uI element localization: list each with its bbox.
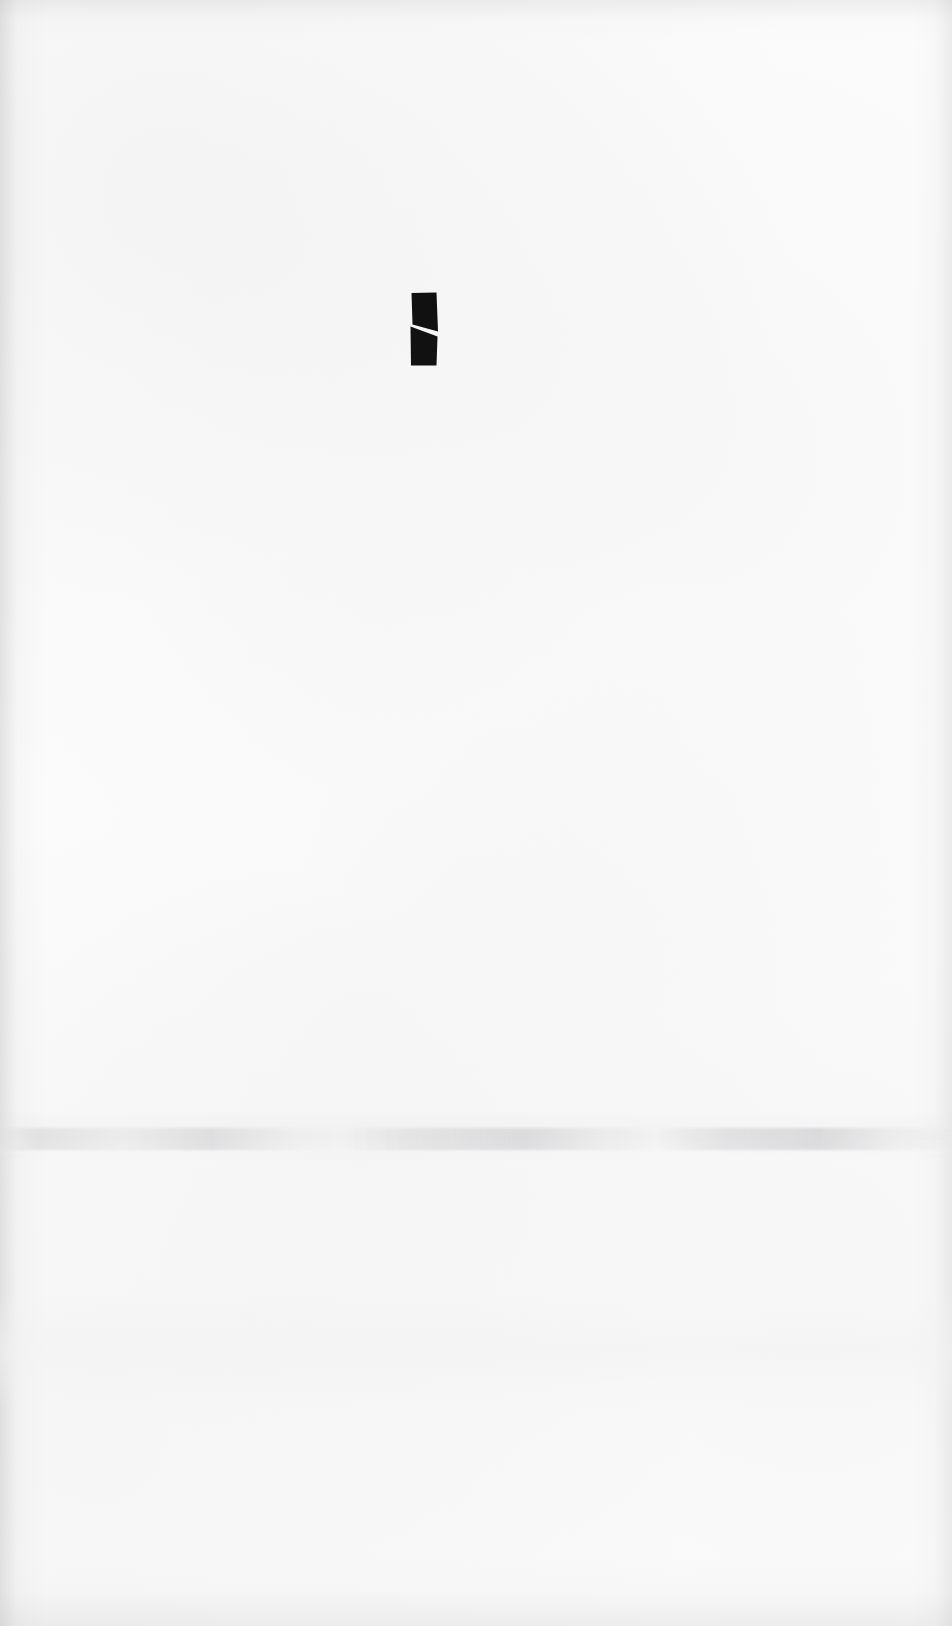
scanned-page <box>0 0 952 1626</box>
paper-background <box>0 0 952 1626</box>
